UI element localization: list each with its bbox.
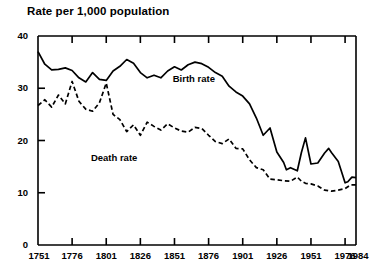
chart-axes [38, 36, 356, 245]
y-axis-label-40: 40 [6, 30, 28, 41]
y-axis-label-0: 0 [6, 239, 28, 250]
x-axis-label-1984: 1984 [338, 250, 378, 261]
y-axis-label-30: 30 [6, 82, 28, 93]
annotation-death-rate: Death rate [91, 152, 137, 163]
chart-container: Rate per 1,000 population 010203040 1751… [0, 0, 389, 276]
series-line-birth-rate [38, 52, 356, 183]
y-axis-label-10: 10 [6, 187, 28, 198]
annotation-birth-rate: Birth rate [173, 73, 215, 84]
series-line-death-rate [38, 81, 356, 191]
y-axis-label-20: 20 [6, 135, 28, 146]
chart-plot-area [0, 0, 389, 276]
